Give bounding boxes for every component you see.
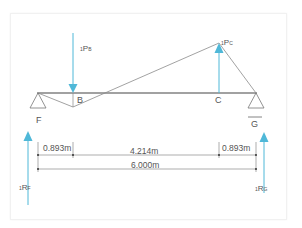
reaction-rf-label: 1RF [19, 184, 31, 192]
point-c-label: C [215, 96, 222, 105]
load-pc-label: 1PC [221, 39, 233, 47]
point-b-label: B [77, 96, 83, 105]
point-g-label: G [251, 120, 258, 129]
load-arrow-pb-icon [69, 33, 78, 93]
dim-left-label: 0.893m [43, 144, 71, 153]
load-pb-label: 1PB [80, 45, 91, 53]
reaction-rg-label: 1RG [255, 185, 267, 193]
dim-middle-label: 4.214m [130, 147, 158, 156]
point-f-label: F [36, 116, 42, 125]
reaction-arrow-rf-icon [24, 131, 33, 205]
support-g-icon [248, 93, 264, 108]
dim-right-label: 0.893m [222, 144, 250, 153]
dim-total-label: 6.000m [131, 161, 159, 170]
load-arrow-pc-icon [215, 43, 224, 93]
beam-diagram [0, 0, 302, 228]
